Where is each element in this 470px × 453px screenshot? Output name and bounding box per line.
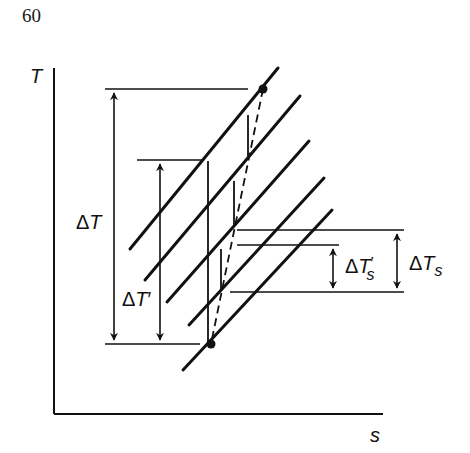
isobar-line-2 (145, 96, 300, 280)
ts-diagram: T s ΔT ΔT′ (0, 0, 470, 453)
right-reference-lines (230, 230, 404, 292)
delta-T-label: ΔT (76, 211, 103, 233)
x-axis-label: s (370, 424, 380, 446)
delta-Ts-label: ΔTs (409, 252, 443, 279)
actual-process-dashed-line (211, 89, 263, 344)
isobar-line-1 (130, 68, 278, 249)
y-axis-label: T (30, 65, 44, 87)
state-point-upper (259, 85, 268, 94)
delta-Ts-prime-label: ΔT′s (345, 255, 375, 283)
delta-T-prime-label: ΔT′ (122, 288, 152, 310)
isobar-line-5 (183, 210, 332, 370)
state-point-lower (207, 340, 216, 349)
isobar-line-3 (167, 141, 309, 302)
axes (54, 68, 383, 414)
